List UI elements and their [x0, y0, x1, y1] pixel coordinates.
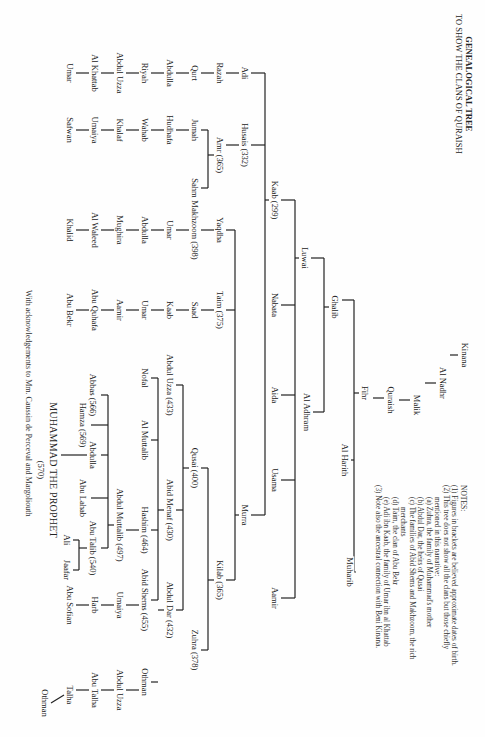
person-kilab: Kilab (365) [216, 559, 225, 600]
person-aamir-l: Aamir [271, 586, 280, 610]
person-razah: Razah [216, 61, 225, 84]
person-qusai: Qusai (400) [191, 447, 200, 489]
person-qurt: Qurt [191, 64, 200, 82]
person-malik: Malik [413, 394, 422, 416]
person-abdulla-m: Abdulla [141, 215, 150, 244]
person-hashim: Hashim (464) [141, 506, 150, 555]
person-aamir-t: Aamir [116, 298, 125, 322]
person-abbas: Abbas (566) [89, 373, 98, 417]
person-harb: Harb [91, 596, 100, 615]
person-muhammad: MUHAMMAD THE PROPHET [48, 401, 58, 539]
person-abu-talib: Abu Talib (540) [89, 520, 98, 577]
person-al-adhram: Al Adhram [303, 392, 312, 432]
person-muhammad-date: (570) [37, 460, 46, 480]
person-adi: Adi [241, 66, 250, 81]
person-quraish: Quraish [387, 386, 396, 415]
person-makhzoom: Makhzoom (398) [191, 199, 200, 260]
person-abdul-dar: Abdul Dar (432) [166, 581, 175, 640]
person-al-muttalib: Al Muttalib [141, 419, 150, 461]
person-husais: Husais (332) [241, 122, 250, 168]
person-abu-bekr: Abu Bekr [66, 292, 75, 327]
person-al-nadhr: Al Nadhr [439, 366, 448, 400]
person-abu-quhafa: Abu Quhafa [91, 288, 100, 332]
note-2: (2) This tree does not show all the clan… [441, 485, 449, 695]
person-abid-menaf: Abid Menaf (430) [166, 478, 175, 542]
person-khalaf: Khalaf [116, 117, 125, 142]
person-hamza: Hamza (569) [79, 402, 88, 449]
notes-heading: NOTES: [458, 485, 467, 695]
notes-block: NOTES: (1) Figures in brackets are belie… [373, 485, 467, 695]
person-sahm: Sahm [191, 177, 200, 198]
person-al-khattab: Al Khattab [91, 53, 100, 93]
person-riyah: Riyah [141, 62, 150, 84]
person-khalid: Khalid [66, 217, 75, 242]
person-kinana: Kinana [461, 342, 470, 369]
person-abu-lahab: Abu Lahab [79, 478, 88, 518]
person-kaab: Kaab (299) [271, 180, 280, 220]
person-muharib: Muharib [346, 556, 355, 587]
person-abdul-muttalib: Abdul Muttalib (497) [116, 487, 125, 562]
person-abu-sofian: Abu Sofian [66, 585, 75, 626]
person-ali: Ali [63, 534, 72, 547]
person-murra: Murra [241, 503, 250, 526]
person-abdulla-p: Abdulla [89, 440, 98, 469]
person-abu-talha: Abu Talha [91, 671, 100, 708]
person-othman-d: Othman [141, 667, 150, 696]
note-2a: (a) Zuhra, the family of Muhammad's moth… [424, 485, 432, 695]
note-2d: (d) Taim, the clan of Abu Bekr [390, 485, 398, 695]
person-wahab: Wahab [141, 117, 150, 142]
person-abdul-uzza-433: Abdul Uzza (433) [166, 353, 175, 416]
person-jaafar: Jaafar [63, 559, 72, 581]
person-taim: Taim (375) [216, 290, 225, 330]
person-yaqdha: Yaqdha [216, 216, 225, 244]
person-al-waleed: Al Waleed [91, 211, 100, 249]
person-aida: Aida [271, 386, 280, 405]
person-saad: Saad [191, 301, 200, 320]
person-al-harith: Al Harith [341, 443, 350, 477]
person-mughira: Mughira [116, 214, 125, 245]
person-nofal: Nofal [141, 367, 150, 388]
person-hudhafa: Hudhafa [166, 114, 175, 145]
note-2e: (e) Adi ibn Kaab, the family of Umar ibn… [382, 485, 390, 695]
person-jumah: Jumah [191, 118, 200, 142]
person-fihr: Fihr [361, 385, 370, 401]
person-kaab-t: Kaab [166, 300, 175, 320]
person-talha: Talha [66, 685, 75, 706]
person-abdul-uzza-a: Abdul Uzza [116, 52, 125, 95]
person-umaiya-j: Umaiya [91, 116, 100, 145]
note-2c-cont: merchants [399, 485, 407, 695]
genealogy-page: GENEALOGICAL TREE TO SHOW THE CLANS OF Q… [0, 0, 485, 737]
person-ghalib: Ghalib [331, 294, 340, 319]
person-umar-t: Umar [141, 299, 150, 320]
person-abdul-uzza-d: Abdul Uzza [116, 669, 125, 712]
note-2b: (b) Abdul Dar, the heirs of Qusai [416, 485, 424, 695]
acknowledgement: With acknowledgements to Mm. Caussin de … [24, 290, 33, 516]
person-umar-m: Umar [166, 219, 175, 240]
person-abid-shems: Abid Shems (455) [141, 568, 150, 632]
person-usama: Usama [271, 467, 280, 493]
person-umaiya-s: Umaiya [116, 591, 125, 620]
connector-line [51, 695, 64, 703]
person-zuhra: Zuhra (378) [191, 629, 200, 672]
person-abdulla-adi: Abdulla [166, 58, 175, 87]
person-nabata: Nabata [271, 292, 280, 318]
person-safwan: Safwan [66, 116, 75, 144]
note-1: (1) Figures in brackets are believed app… [450, 485, 458, 695]
note-3: (3) Note also the ancestral connection w… [373, 485, 381, 695]
person-umar-k: Umar [66, 62, 75, 83]
person-othman-t: Othman [41, 688, 50, 717]
note-2-cont: mentioned in this narrative: [433, 485, 441, 695]
note-2c: (c) The families of Abid Shems and Makhz… [407, 485, 415, 695]
person-amr: Amr (365) [216, 136, 225, 174]
person-luwai: Luwai [301, 246, 310, 270]
